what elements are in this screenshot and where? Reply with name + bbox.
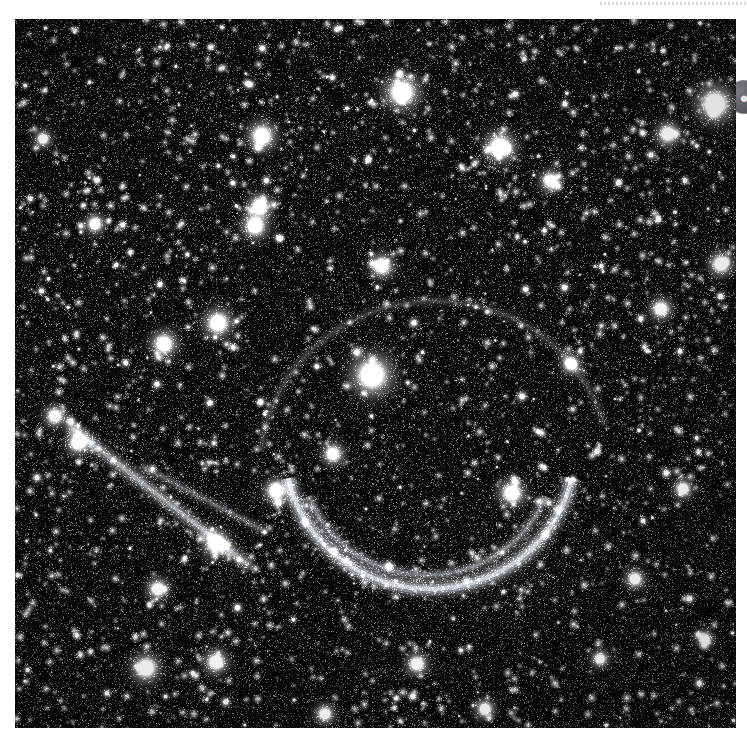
image-viewer-page: ● Deep-sky survey image Star field with … bbox=[0, 0, 747, 745]
sky-image-frame[interactable] bbox=[15, 19, 736, 728]
top-dotted-divider bbox=[600, 2, 747, 5]
sky-image-canvas[interactable] bbox=[15, 19, 736, 728]
